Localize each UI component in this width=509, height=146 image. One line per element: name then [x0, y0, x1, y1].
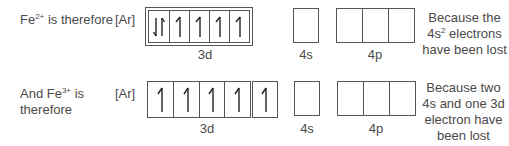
up-arrow-icon	[182, 86, 192, 114]
up-arrow-icon	[214, 15, 224, 39]
fe3-3d-cell-5	[252, 81, 278, 118]
fe2-4s-orbital-box	[293, 8, 319, 43]
fe2-4s-cell-1	[294, 9, 318, 42]
fe3-note-line-4: been lost	[418, 128, 509, 144]
fe3-4p-label: 4p	[361, 121, 391, 136]
fe2-4p-label: 4p	[360, 47, 390, 62]
fe3-4s-cell-1	[295, 82, 319, 115]
fe3-3d-orbital-box	[147, 81, 251, 118]
fe2-3d-cell-4	[209, 11, 229, 42]
fe2-label-element: Fe	[20, 12, 35, 27]
up-down-arrow-pair-icon	[152, 16, 166, 38]
fe3-4p-cell-1	[338, 82, 363, 115]
fe3-note-line-1: Because two	[418, 80, 509, 96]
fe3-3d-cell-3	[199, 82, 225, 117]
up-arrow-icon	[194, 15, 204, 39]
fe2-3d-label: 3d	[190, 47, 220, 62]
fe3-3d-cell-1	[148, 82, 173, 117]
fe2-4p-orbital-box	[336, 8, 415, 43]
fe3-note-line-3: electron have	[418, 112, 509, 128]
fe2-note-line-1: Because the	[420, 10, 509, 26]
fe3-label-element: And Fe	[20, 86, 62, 101]
fe2-3d-cell-5	[229, 11, 249, 42]
fe3-4s-label: 4s	[292, 121, 322, 136]
fe2-4p-cell-2	[362, 9, 387, 42]
fe3-3d-cell-2	[173, 82, 199, 117]
fe2-4p-cell-3	[388, 9, 414, 42]
fe3-4s-orbital-box	[294, 81, 320, 116]
fe3-label-line-2: therefore	[20, 102, 84, 118]
fe3-label-line-1: And Fe3+ is	[20, 86, 84, 102]
fe2-note-orbital: 4s	[427, 26, 441, 41]
fe2-core-config: [Ar]	[115, 12, 135, 27]
up-arrow-icon	[233, 86, 243, 114]
fe2-3d-orbital-box	[148, 10, 250, 43]
up-arrow-icon	[174, 15, 184, 39]
fe3-label: And Fe3+ is therefore	[20, 86, 84, 118]
up-arrow-icon	[260, 86, 270, 114]
up-arrow-icon	[156, 86, 166, 114]
fe3-note-line-2: 4s and one 3d	[418, 96, 509, 112]
fe2-label-suffix: is therefore	[44, 12, 113, 27]
fe2-3d-cell-1	[149, 11, 169, 42]
fe3-explanation-note: Because two 4s and one 3d electron have …	[418, 80, 509, 144]
fe2-4p-cell-1	[337, 9, 362, 42]
up-arrow-icon	[234, 15, 244, 39]
fe3-3d-label: 3d	[192, 121, 222, 136]
fe3-4p-cell-2	[363, 82, 388, 115]
fe2-note-line-2: 4s2 electrons	[420, 26, 509, 42]
fe3-3d-cell-4	[224, 82, 250, 117]
fe2-charge: 2+	[35, 12, 44, 21]
fe2-label: Fe2+ is therefore	[20, 12, 113, 28]
fe2-3d-cell-3	[189, 11, 209, 42]
fe2-note-suffix: electrons	[445, 26, 501, 41]
fe3-core-config: [Ar]	[115, 86, 135, 101]
fe3-4p-cell-3	[389, 82, 415, 115]
fe3-4p-orbital-box	[337, 81, 416, 116]
fe2-4s-label: 4s	[291, 47, 321, 62]
up-arrow-icon	[207, 86, 217, 114]
fe2-note-line-3: have been lost	[420, 42, 509, 58]
fe3-label-suffix: is	[71, 86, 84, 101]
fe2-3d-cell-2	[169, 11, 189, 42]
fe3-charge: 3+	[62, 86, 71, 95]
fe2-explanation-note: Because the 4s2 electrons have been lost	[420, 10, 509, 58]
